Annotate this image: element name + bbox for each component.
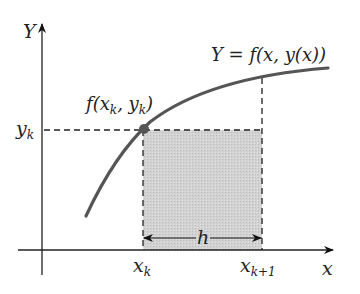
- yk-label: yk: [15, 117, 34, 142]
- x-axis-label: x: [322, 257, 333, 279]
- y-axis-label: Y: [23, 20, 38, 42]
- step-h-label: h: [197, 226, 209, 248]
- xk-label: xk: [133, 254, 151, 279]
- curve-label: Y = f(x, y(x)): [211, 44, 326, 65]
- point-xk-yk: [139, 124, 149, 134]
- point-label: f(xk, yk): [84, 93, 153, 117]
- euler-method-diagram: Y x Y = f(x, y(x)) f(xk, yk) yk xk xk+1 …: [0, 0, 360, 294]
- xk1-label: xk+1: [240, 254, 276, 279]
